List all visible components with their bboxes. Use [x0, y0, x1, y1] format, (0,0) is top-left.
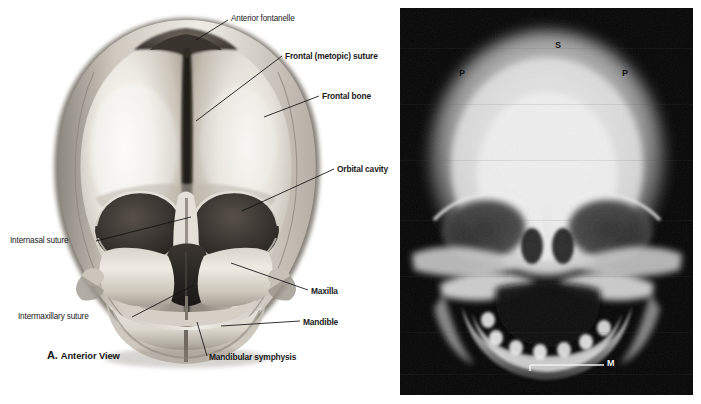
- panel-a-caption-letter: A.: [47, 349, 58, 361]
- film-grain-overlay: [400, 8, 693, 395]
- panel-a-caption: A.Anterior View: [47, 345, 120, 363]
- label-internasal-suture: Internasal suture: [10, 236, 68, 246]
- label-orbital-cavity: Orbital cavity: [337, 164, 388, 174]
- label-mandible: Mandible: [303, 317, 338, 327]
- xray-label-parietal-right: P: [622, 68, 628, 78]
- label-frontal-metopic-suture: Frontal (metopic) suture: [285, 51, 378, 61]
- label-mandibular-symphysis: Mandibular symphysis: [209, 352, 296, 362]
- neonatal-skull-radiograph-image: [400, 8, 693, 395]
- label-anterior-fontanelle: Anterior fontanelle: [231, 14, 295, 24]
- xray-label-parietal-left: P: [459, 68, 465, 78]
- xray-label-sagittal-suture: S: [555, 40, 561, 50]
- label-frontal-bone: Frontal bone: [322, 91, 371, 101]
- label-intermaxillary-suture: Intermaxillary suture: [18, 312, 89, 322]
- panel-b-radiograph: [400, 8, 693, 395]
- label-maxilla: Maxilla: [311, 286, 338, 296]
- panel-a-caption-text: Anterior View: [61, 350, 120, 361]
- intermaxillary-suture-line: [185, 296, 188, 320]
- xray-label-mandible: M: [607, 358, 615, 368]
- figure-root: Anterior fontanelle Frontal (metopic) su…: [0, 0, 701, 404]
